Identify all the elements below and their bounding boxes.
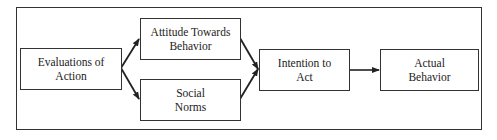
arrow-evaluations-to-social-norms — [121, 68, 139, 99]
node-label-line: Intention to — [278, 56, 331, 70]
node-intention-to-act: Intention to Act — [259, 49, 350, 91]
arrow-evaluations-to-attitude — [121, 39, 139, 68]
node-attitude-towards-behavior: Attitude Towards Behavior — [140, 18, 241, 60]
node-evaluations-of-action: Evaluations of Action — [20, 48, 122, 90]
node-label-line: Act — [278, 70, 331, 84]
node-social-norms: Social Norms — [140, 79, 241, 121]
node-label-line: Behavior — [408, 70, 450, 84]
node-label-line: Norms — [175, 100, 206, 114]
node-actual-behavior: Actual Behavior — [380, 49, 479, 91]
node-label-line: Actual — [408, 56, 450, 70]
node-label-line: Attitude Towards — [151, 25, 231, 39]
node-label-line: Evaluations of — [38, 55, 105, 69]
arrow-attitude-to-intention — [240, 38, 258, 69]
node-label-line: Behavior — [151, 39, 231, 53]
node-label-line: Social — [175, 86, 206, 100]
node-label-line: Action — [38, 69, 105, 83]
arrow-social-norms-to-intention — [240, 69, 258, 99]
